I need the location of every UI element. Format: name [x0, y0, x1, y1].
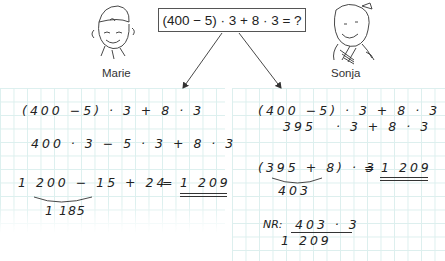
marie-line2: 400 · 3 − 5 · 3 + 8 · 3	[31, 136, 236, 151]
sonja-line2-rest: · 3 + 8 · 3	[336, 119, 431, 134]
sonja-nr-result: 1 209	[281, 233, 332, 248]
sonja-nr-label: NR:	[263, 218, 283, 231]
marie-result-underline	[180, 193, 227, 197]
marie-line3: 1 200 − 15 + 24	[18, 175, 167, 190]
marie-icon	[92, 6, 134, 59]
marie-name: Marie	[102, 67, 131, 79]
sonja-line1: (400 −5) · 3 + 8 · 3	[258, 103, 440, 118]
sonja-line2-395: 395	[283, 119, 316, 134]
sonja-result: 1 209	[381, 160, 432, 175]
sonja-result-underline	[380, 177, 428, 181]
sonja-line3: (395 + 8) · 3	[258, 160, 377, 175]
arrow-to-sonja	[239, 33, 281, 88]
marie-line1: (400 −5) · 3 + 8 · 3	[22, 103, 204, 118]
arrow-to-marie	[183, 33, 222, 88]
sonja-nr-expression: 403 · 3	[295, 217, 360, 232]
marie-brace	[34, 197, 92, 202]
sonja-equals: =	[364, 160, 377, 175]
sonja-name: Sonja	[331, 67, 360, 79]
marie-result: 1 209	[180, 175, 231, 190]
sonja-icon	[334, 3, 375, 64]
marie-subresult: 1 185	[45, 203, 86, 218]
sonja-subresult: 403	[278, 183, 311, 198]
marie-equals: =	[162, 175, 175, 190]
